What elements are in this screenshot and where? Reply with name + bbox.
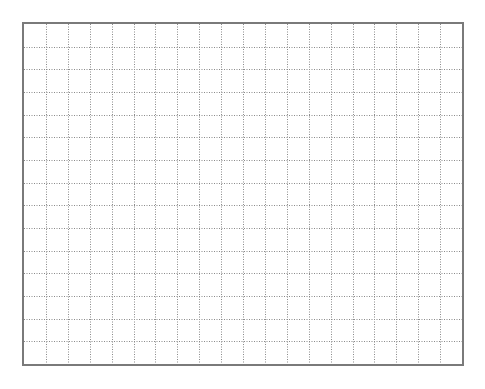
dotted-grid [24, 24, 462, 364]
grid-frame [22, 22, 464, 366]
canvas [0, 0, 485, 389]
